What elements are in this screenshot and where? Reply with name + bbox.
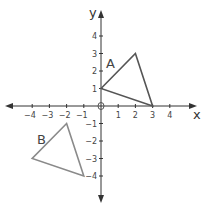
coordinate-plane-diagram: −4 −3 −2 −1 1 2 3 4 x 4 3 2 [0,0,204,211]
x-tick-label: 1 [116,111,121,120]
triangle-a-label: A [106,56,115,71]
x-axis-left-arrow-icon [5,103,13,109]
y-tick-label: −2 [85,137,97,146]
y-axis-up-arrow-icon [98,10,104,18]
y-tick-label: −1 [85,120,97,129]
x-tick-label: 4 [167,111,172,120]
x-tick-label: −4 [24,111,36,120]
triangle-a: A [101,54,153,107]
y-tick-label: 3 [92,50,97,59]
triangle-b: B [32,124,84,177]
x-tick-label: −3 [42,111,54,120]
y-tick-label: 4 [92,32,97,41]
y-tick-label: −3 [85,155,97,164]
y-tick-label: −4 [85,172,97,181]
y-axis-down-arrow-icon [98,195,104,203]
x-tick-label: −2 [59,111,71,120]
x-axis: −4 −3 −2 −1 1 2 3 4 x [5,103,201,122]
y-axis: 4 3 2 1 −1 −2 −3 −4 y [85,5,104,203]
y-axis-label: y [89,5,97,20]
coordinate-plane: −4 −3 −2 −1 1 2 3 4 x 4 3 2 [0,0,204,211]
x-tick-label: 2 [133,111,138,120]
triangle-b-label: B [37,132,46,147]
y-tick-label: 2 [92,67,97,76]
y-tick-label: 1 [92,85,97,94]
x-tick-label: 3 [150,111,155,120]
x-axis-label: x [193,107,201,122]
